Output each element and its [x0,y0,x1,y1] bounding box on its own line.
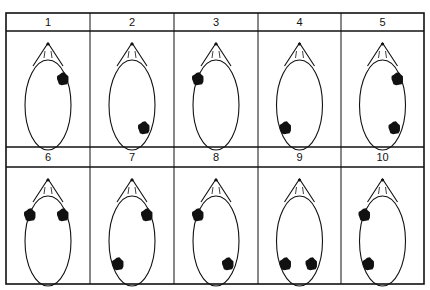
seed-outline-icon [25,178,71,286]
spot-pattern-diagram: 12345678910 [0,0,430,290]
panel-4: 4 [277,16,323,150]
spot-upper-left-icon [24,208,36,221]
panel-number-label: 6 [45,151,51,163]
panel-9: 9 [277,151,323,286]
panel-number-label: 2 [129,16,135,28]
spot-upper-right-icon [141,208,153,221]
spot-upper-right-icon [57,208,69,221]
panel-2: 2 [109,16,155,150]
seed-outline-icon [25,42,71,150]
panel-number-label: 5 [379,16,385,28]
seed-outline-icon [193,178,239,286]
panel-3: 3 [192,16,239,150]
spot-lower-left-icon [363,257,375,270]
spot-lower-right-icon [138,121,150,134]
panel-8: 8 [192,151,239,286]
panel-number-label: 9 [296,151,302,163]
grid-frame [6,13,424,284]
panel-number-label: 3 [213,16,219,28]
spot-lower-left-icon [280,257,292,270]
spot-upper-right-icon [57,72,69,85]
panel-7: 7 [109,151,155,286]
panel-5: 5 [360,16,406,150]
spot-lower-left-icon [112,257,124,270]
panel-number-label: 1 [45,16,51,28]
spot-upper-left-icon [192,208,204,221]
spot-lower-right-icon [389,121,401,134]
seed-outline-icon [360,42,406,150]
panel-6: 6 [24,151,71,286]
panel-number-label: 4 [296,16,302,28]
seed-outline-icon [109,42,155,150]
spot-lower-left-icon [280,121,292,134]
seed-outline-icon [193,42,239,150]
panel-1: 1 [25,16,71,150]
spot-upper-left-icon [192,72,204,85]
spot-lower-right-icon [222,257,234,270]
spot-upper-right-icon [392,72,404,85]
spot-upper-left-icon [359,208,371,221]
panel-number-label: 8 [213,151,219,163]
panel-10: 10 [359,151,406,286]
panel-number-label: 10 [376,151,388,163]
panel-number-label: 7 [129,151,135,163]
spot-lower-right-icon [306,257,318,270]
